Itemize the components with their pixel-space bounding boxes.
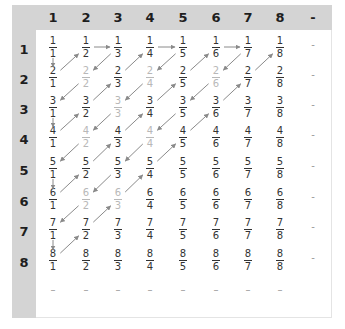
path-arrow bbox=[125, 175, 143, 192]
path-arrow bbox=[93, 84, 110, 100]
path-arrow bbox=[93, 144, 111, 161]
path-arrow bbox=[60, 54, 78, 71]
path-arrow bbox=[190, 84, 208, 101]
path-arrow bbox=[93, 206, 110, 222]
path-arrow bbox=[157, 144, 175, 161]
path-arrow bbox=[125, 144, 143, 161]
path-arrow bbox=[190, 114, 208, 131]
path-arrow bbox=[93, 175, 111, 192]
path-arrow bbox=[60, 175, 78, 192]
path-arrow bbox=[223, 54, 240, 70]
path-arrow bbox=[125, 84, 142, 100]
path-arrow bbox=[190, 54, 208, 71]
cantor-diagonal-arrows bbox=[0, 0, 345, 329]
path-arrow bbox=[157, 114, 175, 131]
path-arrow bbox=[125, 114, 142, 130]
path-arrow bbox=[255, 54, 272, 70]
path-arrow bbox=[157, 84, 175, 101]
path-arrow bbox=[60, 236, 78, 253]
path-arrow bbox=[93, 54, 110, 70]
path-arrow bbox=[125, 54, 142, 70]
path-arrow bbox=[60, 144, 78, 161]
path-arrow bbox=[60, 84, 78, 101]
path-arrow bbox=[60, 114, 78, 131]
path-arrow bbox=[60, 206, 78, 223]
path-arrow bbox=[157, 54, 175, 71]
path-arrow bbox=[93, 114, 110, 130]
path-arrow bbox=[223, 84, 240, 100]
